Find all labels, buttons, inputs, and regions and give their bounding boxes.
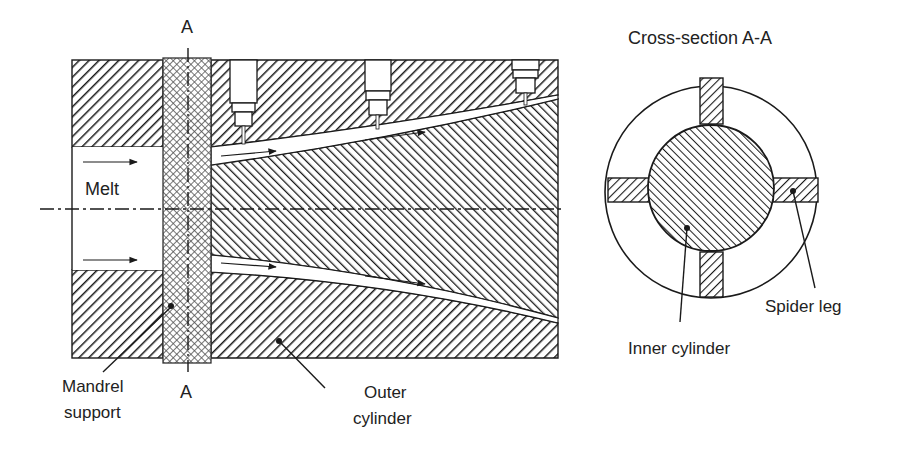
inner-cylinder-section bbox=[648, 125, 774, 251]
spider-leg-label: Spider leg bbox=[765, 297, 842, 316]
side-view: A A Melt Mandrel support Outer cylinder bbox=[40, 17, 565, 428]
mandrel-support-label-2: support bbox=[64, 403, 121, 422]
outer-cylinder-label-2: cylinder bbox=[353, 409, 412, 428]
spider-leg-top bbox=[700, 78, 723, 124]
spider-leg-bottom bbox=[700, 252, 723, 297]
section-label-bottom: A bbox=[180, 382, 192, 402]
cross-section-title: Cross-section A-A bbox=[628, 28, 772, 48]
section-label-top: A bbox=[181, 17, 193, 37]
outer-cylinder-label-1: Outer bbox=[364, 383, 407, 402]
melt-label: Melt bbox=[85, 179, 119, 199]
spider-leg-left bbox=[608, 178, 653, 202]
mandrel-support-label-1: Mandrel bbox=[62, 377, 123, 396]
die-diagram: A A Melt Mandrel support Outer cylinder … bbox=[0, 0, 902, 454]
cross-section-view: Cross-section A-A Spider leg Inner cylin… bbox=[605, 28, 842, 358]
inner-cylinder-label: Inner cylinder bbox=[628, 339, 730, 358]
mandrel-support bbox=[163, 58, 211, 363]
